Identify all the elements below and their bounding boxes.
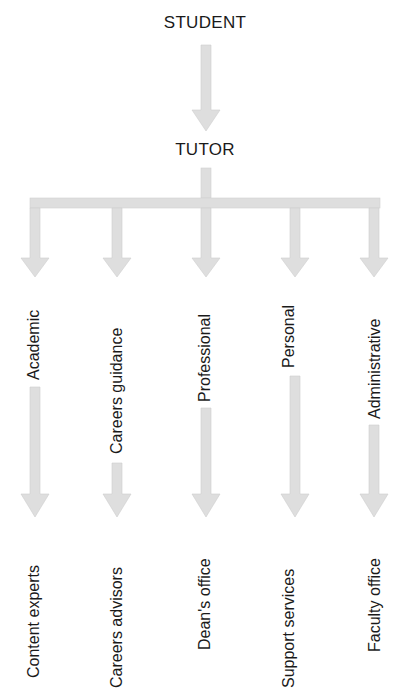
role-label-careers-guidance: Careers guidance xyxy=(108,328,126,454)
arrow-tutor-stem xyxy=(201,168,211,198)
referral-label-deans-office: Dean's office xyxy=(196,558,214,650)
node-student: STUDENT xyxy=(155,13,255,33)
arrow-referral-administrative xyxy=(360,425,388,517)
referral-label-support-services: Support services xyxy=(280,569,298,688)
referral-label-careers-advisors: Careers advisors xyxy=(108,567,126,688)
arrow-student-to-tutor xyxy=(192,45,220,131)
referral-label-content-experts: Content experts xyxy=(25,565,43,678)
arrow-referral-academic xyxy=(21,387,49,517)
arrow-referral-personal xyxy=(281,376,309,517)
role-label-administrative: Administrative xyxy=(366,319,384,419)
arrow-branch-professional xyxy=(192,208,220,277)
role-label-professional: Professional xyxy=(196,314,214,402)
node-tutor: TUTOR xyxy=(155,140,255,160)
arrow-referral-careers xyxy=(103,463,131,517)
arrow-branch-personal xyxy=(281,208,309,277)
arrow-branch-careers xyxy=(103,208,131,277)
referral-label-faculty-office: Faculty office xyxy=(366,558,384,652)
arrow-branch-academic xyxy=(21,208,49,277)
arrow-branch-administrative xyxy=(360,208,388,277)
role-label-academic: Academic xyxy=(25,310,43,380)
arrow-referral-professional xyxy=(192,408,220,517)
role-label-personal: Personal xyxy=(280,305,298,368)
branch-bar xyxy=(30,198,380,208)
